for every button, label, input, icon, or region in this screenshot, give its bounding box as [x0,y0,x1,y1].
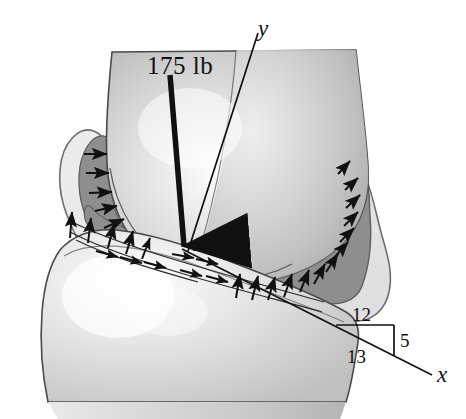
knee-joint-illustration [0,0,466,419]
x-axis-label: x [437,363,447,386]
slope-run-label: 12 [352,305,371,324]
figure-canvas: 175 lb y x A 12 5 13 [0,0,466,419]
slope-rise-label: 5 [400,331,410,350]
y-axis-label: y [258,17,268,40]
load-label: 175 lb [147,53,213,78]
slope-hyp-label: 13 [347,347,366,366]
point-a-label: A [194,232,209,255]
